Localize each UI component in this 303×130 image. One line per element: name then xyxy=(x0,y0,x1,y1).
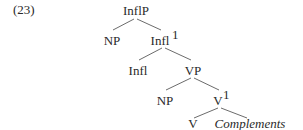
node-inflp: InflP xyxy=(123,3,149,18)
svg-text:Infl: Infl xyxy=(151,33,170,48)
node-vp: VP xyxy=(185,63,202,78)
branch-inflp-inflbar xyxy=(137,19,161,30)
node-infl-bar: Infl 1 xyxy=(151,27,179,48)
node-complements: Complements xyxy=(215,116,286,130)
svg-text:1: 1 xyxy=(172,27,179,42)
svg-text:InflP: InflP xyxy=(123,3,149,18)
branch-inflp-np xyxy=(113,19,134,30)
branch-vp-np xyxy=(166,78,191,90)
node-np-object: NP xyxy=(157,93,174,108)
node-v: V xyxy=(188,116,198,130)
svg-text:NP: NP xyxy=(104,33,121,48)
branch-inflbar-vp xyxy=(165,48,191,60)
syntax-tree: InflP NP Infl 1 Infl VP NP V 1 V Complem… xyxy=(0,0,303,130)
node-np-subject: NP xyxy=(104,33,121,48)
node-infl: Infl xyxy=(129,63,148,78)
branch-vp-vbar xyxy=(194,78,219,90)
branch-inflbar-infl xyxy=(139,48,162,60)
svg-text:V: V xyxy=(213,93,223,108)
svg-text:Complements: Complements xyxy=(215,116,286,130)
svg-text:VP: VP xyxy=(185,63,202,78)
node-v-bar: V 1 xyxy=(213,87,229,108)
svg-text:NP: NP xyxy=(157,93,174,108)
svg-text:V: V xyxy=(188,116,198,130)
svg-text:1: 1 xyxy=(223,87,230,102)
svg-text:Infl: Infl xyxy=(129,63,148,78)
